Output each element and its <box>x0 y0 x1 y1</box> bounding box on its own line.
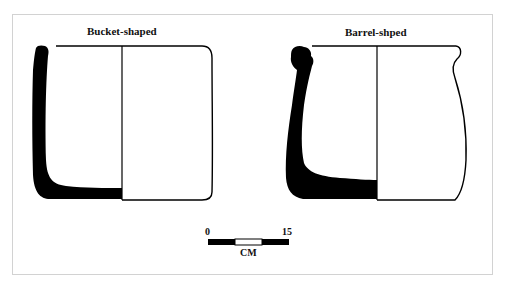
scale-min-label: 0 <box>205 226 210 237</box>
bucket-section-profile <box>32 45 122 199</box>
scale-bar <box>208 239 289 245</box>
vessel-drawings <box>0 0 507 289</box>
scale-unit-label: CM <box>240 247 257 258</box>
bucket-vessel <box>32 45 212 200</box>
scale-max-label: 15 <box>282 226 292 237</box>
barrel-outline <box>377 46 466 200</box>
bucket-outline <box>122 46 212 200</box>
barrel-vessel <box>286 46 466 200</box>
barrel-section-profile <box>286 46 377 199</box>
